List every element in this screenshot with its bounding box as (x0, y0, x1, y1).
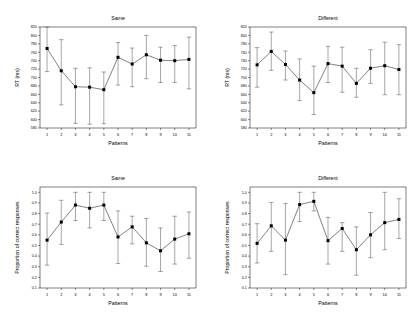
chart-title: Same (111, 15, 125, 21)
x-tick-label: 1 (46, 292, 48, 297)
x-tick-label: 1 (46, 132, 48, 137)
y-tick-label: 660 (241, 93, 247, 97)
data-point-marker (173, 59, 176, 62)
y-tick-label: 1.0 (32, 191, 37, 195)
y-tick-label: 0.1 (242, 286, 247, 290)
y-tick-label: 0.8 (242, 212, 247, 216)
y-tick-label: 680 (241, 84, 247, 88)
y-tick-label: 580 (241, 126, 247, 130)
error-bar (73, 68, 77, 123)
x-tick-label: 2 (60, 292, 62, 297)
x-tick-label: 2 (270, 292, 272, 297)
figure-container: Same580600620640660680700720740760780800… (0, 0, 420, 320)
x-tick-label: 8 (145, 132, 147, 137)
y-tick-label: 0.7 (242, 223, 247, 227)
data-point-marker (298, 203, 301, 206)
data-point-marker (270, 50, 273, 53)
y-axis-label: RT (ms) (14, 68, 20, 87)
x-tick-label: 10 (383, 132, 388, 137)
data-point-marker (131, 63, 134, 66)
data-point-marker (159, 59, 162, 62)
y-tick-label: 0.3 (32, 265, 37, 269)
data-point-marker (256, 63, 259, 66)
data-point-marker (298, 79, 301, 82)
error-bar (255, 48, 259, 88)
chart-title: Different (318, 175, 338, 181)
chart-panel-rt-same: Same580600620640660680700720740760780800… (0, 0, 210, 160)
y-tick-label: 800 (241, 34, 247, 38)
y-tick-label: 0.4 (32, 254, 37, 258)
x-tick-label: 2 (270, 132, 272, 137)
data-point-marker (88, 86, 91, 89)
data-point-marker (397, 218, 400, 221)
data-point-marker (327, 62, 330, 65)
x-tick-label: 3 (284, 132, 286, 137)
x-tick-label: 9 (159, 132, 161, 137)
error-bar (187, 37, 191, 89)
x-tick-label: 10 (173, 292, 178, 297)
data-point-marker (312, 200, 315, 203)
x-tick-label: 4 (89, 292, 92, 297)
data-point-marker (341, 65, 344, 68)
y-tick-label: 820 (241, 25, 247, 29)
data-point-marker (60, 221, 63, 224)
y-tick-label: 0.5 (32, 244, 37, 248)
x-tick-label: 3 (74, 292, 76, 297)
x-tick-label: 8 (355, 292, 357, 297)
y-tick-label: 700 (31, 76, 37, 80)
y-tick-label: 0.9 (242, 201, 247, 205)
data-point-marker (355, 248, 358, 251)
y-tick-label: 0.3 (242, 265, 247, 269)
error-bar (340, 223, 344, 252)
y-tick-label: 660 (31, 93, 37, 97)
y-tick-label: 0.5 (242, 244, 247, 248)
error-bar (87, 68, 91, 124)
y-axis-label: Proportion of correct responses (224, 201, 230, 274)
x-tick-label: 7 (131, 292, 133, 297)
x-tick-label: 6 (117, 292, 119, 297)
error-bar (383, 42, 387, 95)
x-axis-label: Patterns (318, 300, 338, 306)
data-point-marker (355, 82, 358, 85)
x-tick-label: 4 (89, 132, 92, 137)
data-point-marker (117, 235, 120, 238)
data-point-marker (159, 249, 162, 252)
y-tick-label: 780 (31, 42, 37, 46)
x-tick-label: 5 (313, 292, 315, 297)
x-tick-label: 6 (327, 132, 329, 137)
data-point-marker (74, 204, 77, 207)
data-point-marker (46, 239, 49, 242)
error-bar (158, 47, 162, 82)
data-point-marker (270, 224, 273, 227)
data-point-marker (173, 238, 176, 241)
data-point-marker (131, 225, 134, 228)
y-tick-label: 740 (31, 59, 37, 63)
y-tick-label: 0.7 (32, 223, 37, 227)
error-bar (340, 47, 344, 92)
error-bar (102, 72, 106, 124)
x-tick-label: 9 (369, 132, 371, 137)
x-tick-label: 1 (256, 292, 258, 297)
x-tick-label: 2 (60, 132, 62, 137)
chart-panel-rt-different: Different5806006206406606807007207407607… (210, 0, 420, 160)
data-point-marker (312, 91, 315, 94)
x-tick-label: 6 (327, 292, 329, 297)
y-tick-label: 0.2 (242, 276, 247, 280)
x-tick-label: 7 (341, 132, 343, 137)
chart-panel-acc-different: Different0.10.20.30.40.50.60.70.80.91.01… (210, 160, 420, 320)
chart-title: Different (318, 15, 338, 21)
x-tick-label: 3 (74, 132, 76, 137)
x-tick-label: 4 (299, 132, 302, 137)
y-tick-label: 640 (31, 101, 37, 105)
data-point-marker (341, 227, 344, 230)
error-bar (130, 48, 134, 87)
y-tick-label: 600 (31, 118, 37, 122)
x-tick-label: 9 (159, 292, 161, 297)
y-tick-label: 0.2 (32, 276, 37, 280)
y-tick-label: 760 (31, 51, 37, 55)
x-tick-label: 10 (383, 292, 388, 297)
data-point-marker (145, 241, 148, 244)
x-tick-label: 6 (117, 132, 119, 137)
x-tick-label: 3 (284, 292, 286, 297)
y-tick-label: 800 (31, 34, 37, 38)
